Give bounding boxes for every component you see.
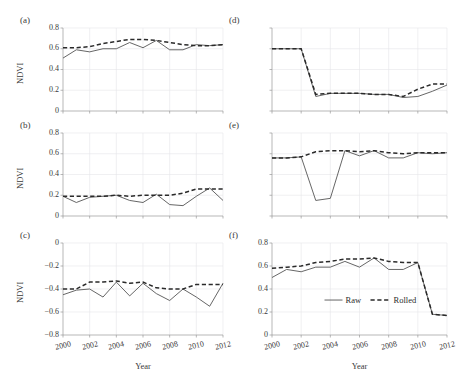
x-tick-label-c-2: 2004 [103, 338, 130, 353]
x-tick-label-c-0: 2000 [49, 338, 76, 353]
panel-label-f: (f) [229, 230, 238, 240]
plot-area-d [0, 0, 456, 382]
axis-spines-b [63, 133, 223, 216]
x-tickmarks-c [63, 335, 223, 338]
axis-spines-a [63, 28, 223, 111]
chart-panel-c: (c)0−0.2−0.4−0.6−0.820002002200420062008… [0, 0, 456, 382]
series-line-rolled-d [272, 49, 447, 97]
x-tick-label-f-0: 2000 [258, 338, 285, 353]
panel-label-a: (a) [20, 15, 30, 25]
x-tickmarks-d [272, 111, 447, 114]
y-tick-label-c-4: −0.8 [29, 330, 59, 339]
series-line-rolled-f [272, 258, 447, 316]
chart-panel-b: (b)0.80.60.40.20NDVI [0, 0, 456, 382]
series-line-raw-c [63, 282, 223, 306]
vertical-gridlines-b [90, 133, 223, 216]
panel-label-d: (d) [229, 15, 240, 25]
series-line-raw-a [63, 40, 223, 58]
x-tick-label-f-2: 2004 [317, 338, 344, 353]
x-tick-label-f-1: 2002 [287, 338, 314, 353]
y-tickmarks-d [270, 28, 273, 111]
series-line-raw-f [272, 258, 447, 316]
panel-label-c: (c) [20, 230, 30, 240]
plot-area-c [0, 0, 456, 382]
horizontal-gridlines-d [272, 28, 447, 90]
vertical-gridlines-f [301, 243, 447, 335]
panel-label-b: (b) [20, 120, 31, 130]
y-tick-label-a-1: 0.6 [29, 43, 59, 52]
x-tickmarks-f [272, 335, 447, 338]
horizontal-gridlines-a [63, 28, 223, 90]
y-tick-label-a-2: 0.4 [29, 64, 59, 73]
y-tick-label-a-3: 0.2 [29, 85, 59, 94]
y-tick-label-f-2: 0.4 [238, 284, 268, 293]
x-axis-title-f: Year [330, 361, 390, 371]
horizontal-gridlines-e [272, 133, 447, 195]
panel-label-e: (e) [229, 120, 239, 130]
y-tick-label-a-0: 0.8 [29, 23, 59, 32]
x-tickmarks-a [63, 111, 223, 114]
series-line-raw-b [63, 188, 223, 206]
legend-label-raw: Raw [346, 295, 362, 305]
x-tick-label-f-4: 2008 [375, 338, 402, 353]
x-tick-label-c-4: 2008 [156, 338, 183, 353]
horizontal-gridlines-b [63, 133, 223, 195]
y-tick-label-b-2: 0.4 [29, 169, 59, 178]
axis-spines-f [272, 243, 447, 335]
series-line-rolled-e [272, 151, 447, 158]
y-tick-label-f-4: 0 [238, 330, 268, 339]
ndvi-multipanel-figure: (a)0.80.60.40.20NDVI(b)0.80.60.40.20NDVI… [0, 0, 456, 382]
y-tick-label-a-4: 0 [29, 106, 59, 115]
vertical-gridlines-e [301, 133, 447, 216]
plot-area-a [0, 0, 456, 382]
x-tick-label-c-3: 2006 [129, 338, 156, 353]
x-tick-label-f-6: 2012 [433, 338, 456, 353]
y-tick-label-c-3: −0.6 [29, 307, 59, 316]
x-tick-label-f-5: 2010 [404, 338, 431, 353]
x-tick-label-c-6: 2012 [209, 338, 236, 353]
x-tick-label-c-1: 2002 [76, 338, 103, 353]
y-tick-label-b-1: 0.6 [29, 148, 59, 157]
plot-area-f: RawRolled [0, 0, 456, 382]
y-tick-label-f-0: 0.8 [238, 238, 268, 247]
y-axis-title-b: NDVI [15, 167, 25, 188]
legend-f: RawRolled [325, 295, 417, 305]
y-tick-label-b-0: 0.8 [29, 128, 59, 137]
chart-panel-f: (f)RawRolled0.80.60.40.20200020022004200… [0, 0, 456, 382]
x-tickmarks-b [63, 216, 223, 219]
x-axis-title-c: Year [113, 361, 173, 371]
legend-label-rolled: Rolled [394, 295, 417, 305]
plot-area-e [0, 0, 456, 382]
y-tick-label-b-3: 0.2 [29, 190, 59, 199]
series-line-raw-d [272, 49, 447, 98]
series-line-rolled-a [63, 39, 223, 47]
y-tickmarks-f [270, 243, 273, 335]
vertical-gridlines-d [301, 28, 447, 111]
y-tick-label-c-1: −0.2 [29, 261, 59, 270]
y-tick-label-c-2: −0.4 [29, 284, 59, 293]
x-tickmarks-e [272, 216, 447, 219]
axis-spines-c [63, 243, 223, 335]
chart-panel-e: (e) [0, 0, 456, 382]
y-tick-label-f-3: 0.2 [238, 307, 268, 316]
y-tickmarks-c [61, 243, 64, 335]
axis-spines-e [272, 133, 447, 216]
series-line-raw-e [272, 151, 447, 201]
series-line-rolled-c [63, 281, 223, 289]
y-tickmarks-e [270, 133, 273, 216]
horizontal-gridlines-f [272, 243, 447, 312]
y-tickmarks-a [61, 28, 64, 111]
y-tick-label-b-4: 0 [29, 211, 59, 220]
y-axis-title-a: NDVI [15, 62, 25, 83]
chart-panel-a: (a)0.80.60.40.20NDVI [0, 0, 456, 382]
plot-area-b [0, 0, 456, 382]
chart-panel-d: (d) [0, 0, 456, 382]
x-tick-label-f-3: 2006 [346, 338, 373, 353]
y-tick-label-f-1: 0.6 [238, 261, 268, 270]
axis-spines-d [272, 28, 447, 111]
y-tick-label-c-0: 0 [29, 238, 59, 247]
horizontal-gridlines-c [63, 243, 223, 312]
vertical-gridlines-a [90, 28, 223, 111]
series-line-rolled-b [63, 189, 223, 196]
y-tickmarks-b [61, 133, 64, 216]
